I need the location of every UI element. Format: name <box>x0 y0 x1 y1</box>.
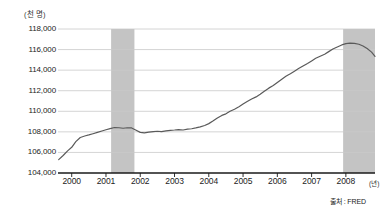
source-label: 출처 : FRED <box>330 196 366 206</box>
employment-line-chart: (천 명) 104,000106,000108,000110,000112,00… <box>0 0 391 217</box>
chart-plot-svg <box>0 0 391 217</box>
x-axis-tick-label: 2002 <box>131 176 150 186</box>
y-axis-tick-label: 104,000 <box>28 168 56 177</box>
x-axis-tick-label: 2000 <box>62 176 81 186</box>
x-axis-tick-label: 2006 <box>268 176 287 186</box>
x-axis-tick-label: 2003 <box>165 176 184 186</box>
y-axis-tick-label: 110,000 <box>28 106 56 115</box>
y-axis-tick-label: 106,000 <box>28 147 56 156</box>
x-axis-tick-label: 2005 <box>234 176 253 186</box>
y-axis-tick-label: 118,000 <box>28 24 56 33</box>
x-axis-tick-label: 2008 <box>337 176 356 186</box>
y-axis-tick-label: 108,000 <box>28 127 56 136</box>
x-axis-unit-label: (년) <box>369 178 379 188</box>
x-axis-tick-label: 2001 <box>97 176 116 186</box>
employment-series-line <box>59 43 375 159</box>
y-axis-tick-label: 114,000 <box>28 65 56 74</box>
y-axis-tick-label: 116,000 <box>28 45 56 54</box>
y-axis-tick-label: 112,000 <box>28 86 56 95</box>
gridline-group <box>58 29 375 152</box>
recession-band <box>111 29 134 173</box>
x-axis-tick-label: 2004 <box>200 176 219 186</box>
recession-shading-group <box>111 29 375 173</box>
x-axis-tick-label: 2007 <box>302 176 321 186</box>
